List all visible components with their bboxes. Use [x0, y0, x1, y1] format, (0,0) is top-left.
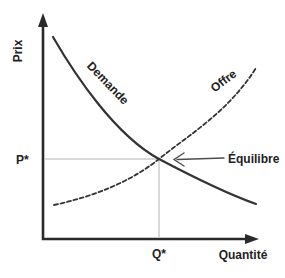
equilibrium-quantity-tick: Q*	[152, 247, 166, 261]
x-axis-label: Quantité	[219, 248, 268, 262]
supply-curve	[54, 68, 256, 205]
x-axis-arrowhead-icon	[245, 234, 259, 244]
equilibrium-label: Équilibre	[228, 151, 280, 166]
y-axis-label: Prix	[11, 39, 25, 62]
supply-curve-label: Offre	[208, 66, 240, 95]
equilibrium-arrow	[177, 158, 224, 160]
supply-demand-figure: Prix Quantité P* Q* Demande Offre Équili…	[0, 0, 285, 278]
demand-curve-label: Demande	[84, 59, 132, 108]
equilibrium-price-tick: P*	[16, 153, 29, 167]
demand-curve	[53, 37, 256, 204]
y-axis-arrowhead-icon	[38, 13, 48, 27]
supply-demand-diagram: Prix Quantité P* Q* Demande Offre Équili…	[0, 0, 285, 278]
